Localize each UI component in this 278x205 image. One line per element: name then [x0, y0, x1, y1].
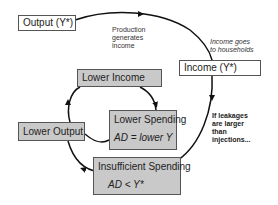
lower-spending-box: Lower Spending AD = lower Y — [109, 110, 177, 150]
income-box: Income (Y*) — [179, 60, 261, 76]
leakages-note-line: injections... — [212, 136, 251, 144]
leakages-note-line: are larger — [212, 120, 251, 128]
arc-lower-output-to-lower-income — [68, 87, 80, 122]
lower-income-label: Lower Income — [78, 70, 161, 84]
arc-lower-income-to-lower-spending — [140, 87, 156, 110]
lower-output-label: Lower Output — [19, 123, 84, 138]
production-note-line: Production — [112, 26, 145, 34]
lower-spending-equation: AD = lower Y — [110, 126, 176, 144]
income-label: Income (Y*) — [180, 61, 260, 74]
insufficient-spending-box: Insufficient Spending AD < Y* — [93, 157, 181, 195]
insufficient-spending-equation: AD < Y* — [94, 173, 180, 191]
arc-lower-spending-to-lower-output — [85, 134, 109, 142]
income-goes-note: Income goes to households — [210, 38, 254, 54]
lower-income-box: Lower Income — [77, 69, 162, 87]
insufficient-spending-label: Insufficient Spending — [94, 158, 180, 173]
output-label: Output (Y*) — [19, 16, 75, 29]
income-goes-note-line: Income goes — [210, 38, 254, 46]
income-goes-note-line: to households — [210, 46, 254, 54]
leakages-note-line: than — [212, 128, 251, 136]
lower-output-box: Lower Output — [18, 122, 85, 141]
leakages-note-line: If leakages — [212, 112, 251, 120]
production-note-line: generates — [112, 34, 145, 42]
output-box: Output (Y*) — [18, 15, 76, 31]
production-note-line: income — [112, 42, 145, 50]
production-note: Production generates income — [112, 26, 145, 50]
leakages-note: If leakages are larger than injections..… — [212, 112, 251, 144]
lower-spending-label: Lower Spending — [110, 111, 176, 126]
